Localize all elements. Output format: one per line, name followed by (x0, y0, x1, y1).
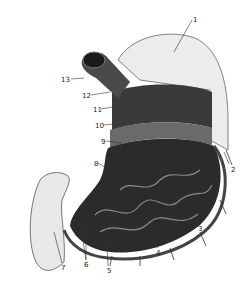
duodenum (30, 173, 69, 271)
label-1: 1 (193, 17, 197, 24)
label-7: 7 (61, 265, 65, 272)
label-12: 12 (82, 93, 91, 100)
stomach-illustration (0, 0, 252, 290)
label-3: 3 (198, 226, 202, 233)
label-9: 9 (101, 139, 105, 146)
label-4: 4 (156, 250, 160, 257)
label-2: 2 (231, 167, 235, 174)
label-6: 6 (84, 262, 88, 269)
label-11: 11 (93, 107, 102, 114)
esophagus-lumen (83, 52, 105, 68)
label-5: 5 (107, 268, 111, 275)
label-10: 10 (95, 123, 104, 130)
label-13: 13 (61, 77, 70, 84)
label-8: 8 (94, 161, 98, 168)
